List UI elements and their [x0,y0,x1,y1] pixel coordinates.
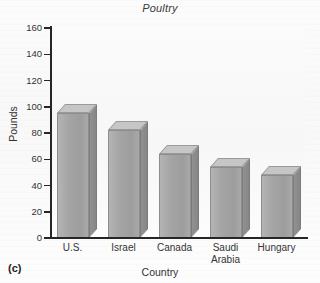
y-axis-tick-label: 20 [10,207,42,217]
plot-area [50,28,305,238]
bar-side-face [191,145,199,238]
y-axis-tick [44,185,51,187]
panel-label: (c) [8,262,21,274]
y-axis-label: Pounds [7,89,19,159]
y-axis-tick-label-text: 20 [14,207,42,217]
y-axis-tick-label: 40 [10,181,42,191]
bar-side-face [293,166,301,238]
bar-front-face [261,175,293,238]
figure-panel: Poultry 020406080100120140160 Pounds U.S… [0,0,320,283]
bar-front-face [108,130,140,238]
bar [261,175,293,238]
x-axis-label: Country [0,266,320,278]
bar-side-face [242,158,250,238]
x-axis-line [50,237,308,239]
y-axis-tick-label-text: 0 [14,233,42,243]
y-axis-tick-label-text: 140 [14,49,42,59]
y-axis-tick-label: 120 [10,76,42,86]
bar-front-face [210,167,242,238]
x-axis-tick-label-line: Hungary [247,242,307,254]
y-axis-tick-label-text: 40 [14,181,42,191]
y-axis-tick [44,27,51,29]
y-axis-tick [44,211,51,213]
bar-side-face [140,121,148,238]
y-axis-tick [44,80,51,82]
bar [210,167,242,238]
y-axis-tick [44,54,51,56]
y-axis-tick-label: 0 [10,233,42,243]
y-axis-tick [44,237,51,239]
x-axis-tick-label-line: Arabia [196,254,256,266]
chart-title: Poultry [0,2,320,14]
y-axis-tick-label-text: 120 [14,76,42,86]
x-axis-tick-label: Hungary [247,242,307,254]
y-axis-tick [44,106,51,108]
y-axis-tick [44,159,51,161]
y-axis-tick-label-text: 160 [14,23,42,33]
bar-front-face [159,154,191,238]
bar-front-face [57,113,89,238]
bar [108,130,140,238]
y-axis-tick-label: 160 [10,23,42,33]
y-axis-tick [44,132,51,134]
bar [159,154,191,238]
bar [57,113,89,238]
bar-side-face [89,104,97,238]
y-axis-tick-label: 140 [10,49,42,59]
